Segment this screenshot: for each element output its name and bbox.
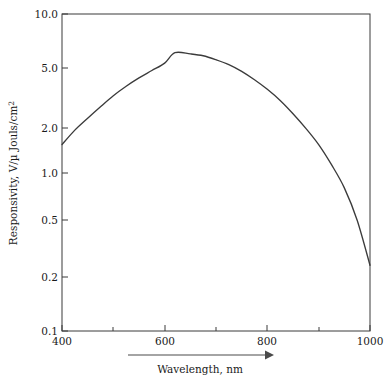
y-tick-label-0.2: 0.2: [41, 271, 58, 283]
y-axis-title: Responsivity, V/µ Jouls/cm2: [7, 101, 20, 245]
y-tick-label-0.5: 0.5: [41, 214, 58, 226]
y-axis-title-main: Responsivity, V/µ Jouls/cm: [7, 106, 19, 246]
y-axis-ticks: [62, 14, 68, 331]
x-tick-label-600: 600: [155, 335, 175, 347]
y-tick-label-5.0: 5.0: [41, 62, 58, 74]
chart-figure: 10.0 5.0 2.0 1.0 0.5 0.2 0.1 400 600 800…: [0, 0, 388, 381]
x-axis-title: Wavelength, nm: [157, 363, 243, 375]
x-tick-label-800: 800: [257, 335, 277, 347]
x-axis-ticks: [62, 325, 370, 331]
chart-plot-svg: 10.0 5.0 2.0 1.0 0.5 0.2 0.1 400 600 800…: [0, 0, 388, 381]
x-tick-label-400: 400: [52, 335, 72, 347]
y-axis-title-group: Responsivity, V/µ Jouls/cm2: [7, 101, 20, 245]
x-axis-tick-labels: 400 600 800 1000: [52, 335, 383, 347]
y-axis-title-superscript: 2: [7, 101, 16, 106]
x-tick-label-1000: 1000: [357, 335, 384, 347]
y-tick-label-10.0: 10.0: [35, 8, 58, 20]
arrow-head-icon: [265, 351, 274, 360]
plot-frame: [62, 14, 370, 331]
y-tick-label-2.0: 2.0: [41, 122, 58, 134]
responsivity-curve: [62, 52, 370, 265]
y-tick-label-1.0: 1.0: [41, 167, 58, 179]
y-axis-tick-labels: 10.0 5.0 2.0 1.0 0.5 0.2 0.1: [35, 8, 58, 337]
x-axis-direction-arrow: [128, 351, 274, 360]
